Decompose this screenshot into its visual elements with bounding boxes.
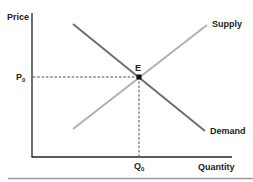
equilibrium-label: E bbox=[135, 63, 141, 73]
q0-label: Q0 bbox=[134, 161, 145, 172]
demand-label: Demand bbox=[210, 126, 246, 136]
p0-label: P0 bbox=[16, 72, 26, 83]
x-axis-label: Quantity bbox=[198, 162, 235, 172]
supply-demand-diagram: Price Quantity Supply Demand E P0 Q0 bbox=[0, 0, 253, 182]
y-axis-label: Price bbox=[7, 12, 29, 22]
supply-label: Supply bbox=[212, 19, 242, 29]
equilibrium-point bbox=[137, 75, 142, 80]
